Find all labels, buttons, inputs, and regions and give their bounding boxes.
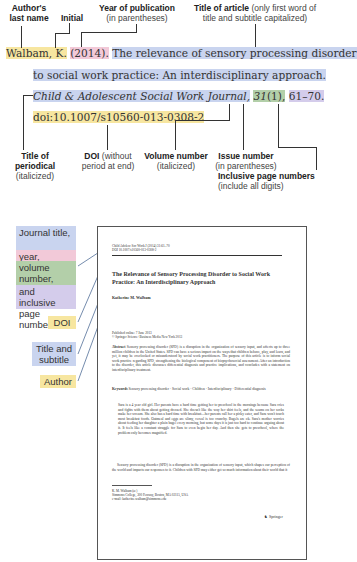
paper-title: The Relevance of Sensory Processing Diso… bbox=[112, 271, 282, 286]
paper-body-1: Sara is a 4 year old girl. Her parents h… bbox=[118, 403, 284, 435]
paper-header-2: DOI 10.1007/s10560-013-0308-2 bbox=[112, 248, 156, 252]
abstract-text: Sensory processing disorder (SPD) is a d… bbox=[112, 345, 290, 372]
paper-body-2: Sensory processing disorder (SPD) is a d… bbox=[112, 463, 290, 472]
paper-abstract: Abstract Sensory processing disorder (SP… bbox=[112, 345, 290, 373]
springer-horse-icon: ♞ bbox=[264, 514, 268, 519]
journal-article-page: Child Adolesc Soc Work J (2014) 31:61–70… bbox=[97, 226, 307, 560]
paper-author: Katherine M. Walbam bbox=[112, 295, 150, 300]
publisher-name: Springer bbox=[269, 514, 283, 519]
paper-header-rule bbox=[112, 255, 282, 256]
abstract-label: Abstract bbox=[112, 345, 125, 349]
springer-logo: ♞ Springer bbox=[264, 514, 283, 519]
footnote-rule bbox=[112, 485, 152, 486]
paper-keywords: Keywords Sensory processing disorder · S… bbox=[112, 387, 290, 392]
footnote-3: e-mail: katherine.walbam@simmons.edu bbox=[112, 497, 166, 501]
paper-copyright: © Springer Science+Business Media New Yo… bbox=[112, 335, 182, 339]
keywords-label: Keywords bbox=[112, 387, 128, 391]
keywords-text: Sensory processing disorder · Social wor… bbox=[128, 387, 265, 391]
